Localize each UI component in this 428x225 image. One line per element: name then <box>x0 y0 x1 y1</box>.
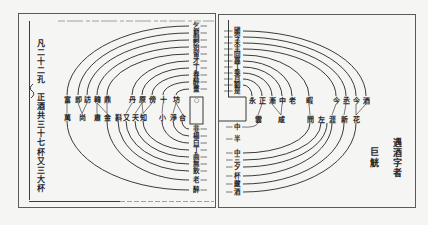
upper-arc <box>132 61 189 95</box>
top-row-label: 富 <box>64 95 71 104</box>
upper-arc <box>87 40 189 95</box>
upper-arc <box>243 67 282 96</box>
upper-column-label: 是 <box>233 86 241 95</box>
upper-arc <box>152 75 189 95</box>
lower-column-label: 藏 <box>234 179 241 188</box>
row-connector <box>344 104 346 115</box>
bottom-row-label: 萬 <box>64 113 71 122</box>
bottom-row-label: 合 <box>178 113 187 122</box>
left-lower-column: 非楊白丁曲無飲老醉 <box>192 124 208 194</box>
arc-diagram: ○ 乞窮嗣始留才丁春醉畫 非楊白丁曲無飲老醉 富即訪韓鼎丹原傍十坊 萬尚肅金斟又… <box>0 0 428 225</box>
book-spread: ○ 乞窮嗣始留才丁春醉畫 非楊白丁曲無飲老醉 富即訪韓鼎丹原傍十坊 萬尚肅金斟又… <box>0 0 428 225</box>
bottom-row-label: 肅 <box>94 113 101 122</box>
upper-arc <box>142 68 189 95</box>
left-heading-column: 凡二十二孔 <box>36 39 44 84</box>
upper-arc <box>78 33 189 95</box>
bottom-row-label: 花 <box>353 115 360 124</box>
right-row-connectors <box>258 104 366 115</box>
bottom-row-label: 淨 <box>169 113 177 122</box>
top-row-label: 中 <box>279 96 286 105</box>
upper-arc <box>163 82 189 95</box>
top-row-label: 原 <box>139 95 146 104</box>
upper-arc <box>243 55 309 96</box>
upper-arc <box>243 61 292 96</box>
row-connector <box>258 104 262 115</box>
top-row-label: 酒 <box>363 96 370 105</box>
lower-column-label: 半 <box>234 134 241 143</box>
right-lower-arcs <box>243 123 356 192</box>
top-row-label: 漸 <box>269 96 276 105</box>
top-row-label: 即 <box>75 95 82 104</box>
row-connector <box>309 104 310 115</box>
center-circle-marker: ○ <box>194 96 199 103</box>
left-page-frame <box>19 14 216 208</box>
lower-arc <box>135 121 189 157</box>
top-row-label: 傍 <box>149 95 156 104</box>
right-upper-column: 國今未主回尋丁乘月劉是 <box>224 26 241 95</box>
top-row-label: 永 <box>248 96 257 105</box>
bottom-row-label: 新 <box>341 115 348 124</box>
lower-column-label: 飲 <box>192 166 200 175</box>
bottom-row-label: 雲 <box>255 115 262 124</box>
bottom-row-label: 又 <box>123 113 131 122</box>
lower-arc <box>243 123 356 192</box>
cloud-to-center-connector <box>242 123 258 127</box>
lower-arc <box>243 123 327 167</box>
upper-column-label: 畫 <box>193 84 200 93</box>
upper-arc <box>67 26 189 95</box>
top-row-label: 鼎 <box>104 95 111 104</box>
top-row-label: 韓 <box>94 95 101 104</box>
lower-column-label: 酒 <box>234 187 241 196</box>
top-row-label: 丞 <box>343 96 350 105</box>
upper-arc <box>243 85 252 96</box>
lower-column-label: 醉 <box>193 185 200 194</box>
bottom-row-label: 金 <box>103 113 112 122</box>
top-row-label: 丹 <box>128 95 136 104</box>
bottom-row-label: 小 <box>158 113 166 122</box>
row-connector <box>281 104 282 115</box>
brace-icon <box>30 84 34 98</box>
left-upper-arcs <box>67 26 189 95</box>
upper-arc <box>107 54 189 95</box>
bottom-row-label: 天 <box>132 113 140 122</box>
lower-column-label: 中 <box>234 122 241 131</box>
bottom-row-label: 尚 <box>79 113 86 122</box>
top-row-label: 老 <box>288 96 296 105</box>
row-connector <box>272 104 281 115</box>
top-row-label: 訪 <box>84 95 91 104</box>
right-top-row: 永正漸中老暇今丞今酒 <box>248 96 370 105</box>
right-bottom-row: 雲咸問左涯新花 <box>255 115 360 124</box>
left-top-row: 富即訪韓鼎丹原傍十坊 <box>64 95 180 104</box>
left-lower-arcs <box>67 121 189 190</box>
top-row-label: 暇 <box>306 96 313 105</box>
top-row-label: 十 <box>160 95 167 104</box>
top-row-label: 正 <box>259 96 266 105</box>
row-connector <box>356 104 366 115</box>
right-page: 國今未主回尋丁乘月劉是 中半中三夕杯藏酒 永正漸中老暇今丞今酒 雲咸問左涯新花 <box>219 15 416 208</box>
bottom-row-label: 涯 <box>329 115 336 124</box>
bottom-row-label: 知 <box>139 113 147 122</box>
lower-arc <box>243 123 332 176</box>
upper-arc <box>243 79 262 96</box>
lower-arc <box>162 121 189 143</box>
bottom-row-label: 斟 <box>115 113 122 122</box>
left-note-column: 正酒共三十七杯又三大杯 <box>36 93 44 193</box>
right-lower-column: 中半中三夕杯藏酒 <box>226 122 241 196</box>
left-bottom-row: 萬尚肅金斟又天知小淨合 <box>64 113 187 122</box>
right-upper-arcs <box>243 31 366 96</box>
lower-column-label: 杯 <box>234 171 241 180</box>
right-note-column: 遇酒字者 <box>392 138 401 178</box>
top-row-label: 今 <box>352 96 360 105</box>
bottom-row-label: 咸 <box>277 115 285 124</box>
top-row-label: 今 <box>332 96 340 105</box>
top-row-label: 坊 <box>173 95 180 104</box>
lower-arc <box>182 121 189 129</box>
right-center-box <box>219 97 246 121</box>
row-connector <box>332 104 336 115</box>
left-upper-column: 乞窮嗣始留才丁春醉畫 <box>192 21 208 93</box>
bottom-row-label: 左 <box>317 115 325 124</box>
lower-column-label: 夕 <box>234 162 241 171</box>
right-note-column-2: 巨觥 <box>369 147 378 169</box>
left-page: ○ 乞窮嗣始留才丁春醉畫 非楊白丁曲無飲老醉 富即訪韓鼎丹原傍十坊 萬尚肅金斟又… <box>19 14 216 208</box>
lower-column-label: 老 <box>192 175 200 184</box>
